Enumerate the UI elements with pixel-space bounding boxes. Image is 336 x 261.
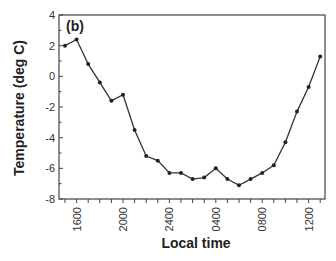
data-point: [121, 93, 125, 97]
data-point: [202, 176, 206, 180]
data-point: [133, 128, 137, 132]
x-tick-label: 1600: [71, 207, 83, 231]
y-tick-label: 2: [49, 40, 55, 52]
x-tick-label: 0800: [256, 207, 268, 231]
axis-ticks: 420-2-4-6-8160020002400040008001200: [45, 9, 320, 231]
data-point: [63, 44, 67, 48]
data-point: [272, 163, 276, 167]
x-tick-label: 1200: [303, 207, 315, 231]
data-point: [249, 177, 253, 181]
data-point: [156, 159, 160, 163]
data-point: [98, 80, 102, 84]
data-point: [283, 140, 287, 144]
data-point: [307, 85, 311, 89]
temperature-line: [65, 40, 320, 186]
y-tick-label: -2: [45, 101, 55, 113]
data-point: [75, 38, 79, 42]
x-tick-label: 2400: [163, 207, 175, 231]
plot-frame: [59, 15, 325, 199]
data-point: [237, 183, 241, 187]
x-tick-label: 2000: [117, 207, 129, 231]
data-point: [109, 99, 113, 103]
data-point: [179, 171, 183, 175]
data-point: [191, 177, 195, 181]
data-point: [144, 154, 148, 158]
data-series: [63, 38, 322, 188]
x-axis-label: Local time: [161, 235, 230, 251]
temperature-chart: 420-2-4-6-8160020002400040008001200 (b) …: [0, 0, 336, 261]
data-point: [214, 166, 218, 170]
y-tick-label: -6: [45, 162, 55, 174]
y-axis-label: Temperature (deg C): [11, 40, 27, 176]
data-point: [86, 62, 90, 66]
data-point: [295, 110, 299, 114]
y-tick-label: -8: [45, 193, 55, 205]
y-tick-label: -4: [45, 132, 55, 144]
y-tick-label: 0: [49, 70, 55, 82]
data-point: [318, 54, 322, 58]
data-point: [167, 171, 171, 175]
plot-area: [59, 15, 325, 199]
y-tick-label: 4: [49, 9, 55, 21]
data-point: [225, 177, 229, 181]
panel-label: (b): [66, 18, 84, 34]
data-point: [260, 171, 264, 175]
x-tick-label: 0400: [210, 207, 222, 231]
